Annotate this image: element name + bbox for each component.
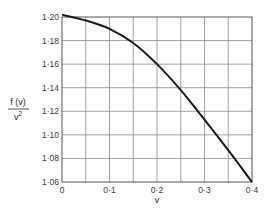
y-label-numerator: f (v): [10, 97, 26, 107]
y-axis-ticks: 1·201·181·161·141·121·101·081·06: [42, 12, 59, 187]
y-label-denominator: v2: [14, 110, 23, 122]
y-axis-label: f (v) v2: [8, 97, 29, 122]
x-tick-label: 0·3: [198, 185, 211, 195]
x-tick-label: 0·1: [103, 185, 116, 195]
y-tick-label: 1·14: [42, 83, 59, 93]
line-chart: 1·201·181·161·141·121·101·081·06 00·10·2…: [0, 0, 264, 216]
x-tick-label: 0·2: [151, 185, 164, 195]
y-tick-label: 1·06: [42, 177, 59, 187]
y-tick-label: 1·18: [42, 36, 59, 46]
y-tick-label: 1·12: [42, 106, 59, 116]
grid-lines: [62, 17, 252, 182]
x-tick-label: 0·4: [246, 185, 259, 195]
y-tick-label: 1·10: [42, 130, 59, 140]
y-tick-label: 1·16: [42, 59, 59, 69]
x-axis-label: v: [155, 195, 160, 205]
x-tick-label: 0: [60, 185, 65, 195]
y-tick-label: 1·20: [42, 12, 59, 22]
x-axis-ticks: 00·10·20·30·4: [60, 185, 259, 195]
y-tick-label: 1·08: [42, 153, 59, 163]
